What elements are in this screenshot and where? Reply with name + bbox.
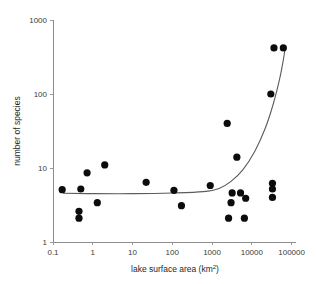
- data-point: [59, 186, 66, 193]
- data-point: [241, 215, 248, 222]
- chart-figure: 1101001000 0.1110100100010000100000 lake…: [0, 0, 316, 284]
- y-tick-label: 1000: [29, 16, 47, 25]
- data-points: [59, 44, 287, 221]
- x-tick-label: 1: [91, 248, 96, 257]
- data-point: [269, 185, 276, 192]
- data-point: [225, 215, 232, 222]
- x-tick-label: 100: [166, 248, 180, 257]
- data-point: [178, 202, 185, 209]
- y-tick-label: 100: [34, 90, 48, 99]
- data-point: [207, 182, 214, 189]
- fitted-curve: [63, 46, 285, 193]
- data-point: [75, 215, 82, 222]
- data-point: [83, 169, 90, 176]
- data-point: [94, 199, 101, 206]
- y-tick-label: 10: [38, 164, 47, 173]
- species-area-scatter-plot: 1101001000 0.1110100100010000100000 lake…: [0, 0, 316, 284]
- x-tick-label: 0.1: [47, 248, 59, 257]
- data-point: [101, 161, 108, 168]
- data-point: [77, 185, 84, 192]
- x-tick-label: 10000: [241, 248, 264, 257]
- y-axis-title: number of species: [12, 96, 22, 165]
- data-point: [270, 44, 277, 51]
- data-point: [229, 189, 236, 196]
- data-point: [227, 199, 234, 206]
- data-point: [267, 90, 274, 97]
- data-point: [143, 179, 150, 186]
- x-tick-label: 100000: [278, 248, 305, 257]
- data-point: [224, 120, 231, 127]
- data-point: [242, 195, 249, 202]
- data-point: [237, 189, 244, 196]
- y-axis-ticks: 1101001000: [29, 16, 53, 247]
- x-axis-ticks: 0.1110100100010000100000: [47, 242, 305, 257]
- x-tick-label: 10: [128, 248, 137, 257]
- plot-axes: [53, 20, 296, 242]
- x-tick-label: 1000: [203, 248, 221, 257]
- data-point: [75, 208, 82, 215]
- data-point: [170, 187, 177, 194]
- y-tick-label: 1: [43, 238, 48, 247]
- data-point: [233, 154, 240, 161]
- x-axis-title: lake surface area (km2): [131, 264, 219, 274]
- data-point: [269, 194, 276, 201]
- data-point: [280, 44, 287, 51]
